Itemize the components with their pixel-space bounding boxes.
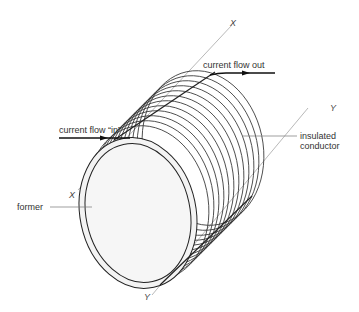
label-conductor: conductor xyxy=(300,141,340,151)
label-insulated: insulated xyxy=(300,131,336,141)
label-axis-y-bottom: Y xyxy=(144,292,151,302)
current-out-arrow xyxy=(210,71,275,76)
label-axis-x-bottom: X xyxy=(68,190,76,200)
label-former: former xyxy=(17,202,43,212)
coil-diagram: current flow “in” current flow out insul… xyxy=(0,0,359,312)
label-axis-x-top: X xyxy=(229,18,237,28)
label-axis-y-top: Y xyxy=(330,103,337,113)
coil-top-edge xyxy=(114,72,215,140)
former-face xyxy=(65,127,210,300)
label-current-out: current flow out xyxy=(203,60,265,70)
label-current-in: current flow “in” xyxy=(59,125,121,135)
